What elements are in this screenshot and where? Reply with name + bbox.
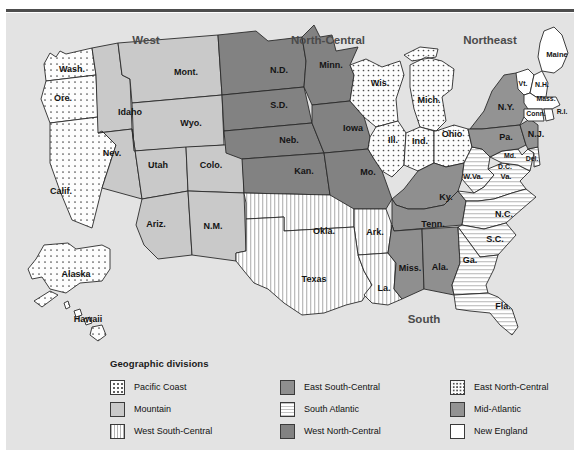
- state-label-del: Del.: [526, 155, 539, 162]
- legend-grid: Pacific Coast East South-Central East No…: [110, 376, 566, 442]
- legend-label-east-south-central: East South-Central: [304, 382, 380, 392]
- state-label-ariz: Ariz.: [146, 219, 166, 229]
- state-label-ark: Ark.: [366, 227, 384, 237]
- legend-label-west-north-central: West North-Central: [304, 426, 381, 436]
- state-label-nh: N.H.: [535, 81, 549, 88]
- legend-swatch-east-north-central: [450, 380, 465, 395]
- region-label-south: South: [408, 313, 441, 325]
- state-label-kan: Kan.: [294, 166, 314, 176]
- state-kansas: [242, 153, 330, 195]
- map-panel: West North-Central Northeast South Wash.…: [6, 13, 574, 450]
- state-label-pa: Pa.: [499, 132, 513, 142]
- state-label-miss: Miss.: [399, 263, 422, 273]
- figure-caption-strip: [0, 0, 580, 9]
- legend-item-east-south-central[interactable]: East South-Central: [280, 376, 450, 398]
- state-label-ny: N.Y.: [498, 102, 515, 112]
- legend-swatch-mid-atlantic: [450, 402, 465, 417]
- state-michigan: [404, 47, 454, 131]
- legend-swatch-new-england: [450, 424, 465, 439]
- legend-swatch-east-south-central: [280, 380, 295, 395]
- legend-item-west-south-central[interactable]: West South-Central: [110, 420, 280, 442]
- legend-swatch-south-atlantic: [280, 402, 295, 417]
- state-label-nc: N.C.: [495, 209, 513, 219]
- state-label-tenn: Tenn.: [421, 219, 444, 229]
- state-label-ill: Ill.: [388, 135, 398, 145]
- legend-label-west-south-central: West South-Central: [134, 426, 212, 436]
- state-label-wva: W.Va.: [463, 172, 483, 181]
- division-west-south-central: [236, 193, 402, 315]
- state-label-ga: Ga.: [463, 255, 478, 265]
- state-label-wash: Wash.: [59, 64, 85, 74]
- legend-label-east-north-central: East North-Central: [474, 382, 549, 392]
- legend-item-south-atlantic[interactable]: South Atlantic: [280, 398, 450, 420]
- state-label-md: Md.: [504, 152, 516, 159]
- state-label-sc: S.C.: [486, 234, 504, 244]
- legend-item-mountain[interactable]: Mountain: [110, 398, 280, 420]
- region-label-northeast: Northeast: [463, 34, 517, 46]
- legend-label-new-england: New England: [474, 426, 528, 436]
- state-label-wyo: Wyo.: [180, 118, 201, 128]
- state-label-la: La.: [377, 283, 390, 293]
- state-label-ky: Ky.: [439, 192, 452, 202]
- state-label-ri: R.I.: [557, 108, 568, 115]
- state-label-idaho: Idaho: [118, 107, 143, 117]
- state-label-ore: Ore.: [54, 93, 72, 103]
- region-label-north-central: North-Central: [291, 34, 365, 46]
- state-label-sd: S.D.: [270, 100, 288, 110]
- header-rule: [6, 9, 574, 12]
- state-texas: [236, 217, 372, 315]
- state-label-nj: N.J.: [528, 129, 545, 139]
- legend-swatch-west-south-central: [110, 424, 125, 439]
- state-label-iowa: Iowa: [343, 123, 364, 133]
- state-label-wis: Wis.: [371, 78, 389, 88]
- state-label-mich: Mich.: [417, 95, 440, 105]
- legend-item-pacific-coast[interactable]: Pacific Coast: [110, 376, 280, 398]
- state-indiana: [404, 127, 434, 171]
- legend-label-mountain: Mountain: [134, 404, 171, 414]
- state-label-okla: Okla.: [313, 226, 335, 236]
- state-label-alaska: Alaska: [61, 269, 91, 279]
- region-label-west: West: [132, 34, 159, 46]
- state-label-minn: Minn.: [319, 60, 343, 70]
- state-label-va: Va.: [501, 172, 512, 181]
- state-label-hawaii: Hawaii: [74, 314, 103, 324]
- state-label-conn: Conn.: [526, 110, 546, 117]
- state-label-texas: Texas: [302, 274, 327, 284]
- legend-label-south-atlantic: South Atlantic: [304, 404, 359, 414]
- state-label-neb: Neb.: [279, 135, 299, 145]
- state-florida: [454, 293, 518, 335]
- legend-item-new-england[interactable]: New England: [450, 420, 580, 442]
- state-label-maine: Maine: [546, 50, 568, 59]
- state-label-utah: Utah: [148, 160, 168, 170]
- state-label-ind: Ind.: [412, 136, 428, 146]
- state-label-vt: Vt.: [519, 80, 528, 87]
- state-label-nm: N.M.: [204, 221, 223, 231]
- state-label-mont: Mont.: [174, 67, 198, 77]
- state-label-mo: Mo.: [360, 167, 376, 177]
- legend-swatch-mountain: [110, 402, 125, 417]
- state-label-mass: Mass.: [536, 95, 555, 102]
- state-label-ohio: Ohio: [442, 129, 463, 139]
- legend-label-mid-atlantic: Mid-Atlantic: [474, 404, 521, 414]
- legend-item-mid-atlantic[interactable]: Mid-Atlantic: [450, 398, 580, 420]
- state-label-fla: Fla.: [495, 301, 511, 311]
- legend-label-pacific-coast: Pacific Coast: [134, 382, 187, 392]
- state-label-nev: Nev.: [103, 148, 121, 158]
- legend-swatch-pacific-coast: [110, 380, 125, 395]
- map-legend: Geographic divisions Pacific Coast East …: [96, 358, 566, 450]
- legend-swatch-west-north-central: [280, 424, 295, 439]
- legend-item-east-north-central[interactable]: East North-Central: [450, 376, 580, 398]
- state-label-dc: D.C.: [498, 163, 512, 170]
- state-label-calif: Calif.: [50, 186, 72, 196]
- state-label-nd: N.D.: [270, 65, 288, 75]
- state-wyoming: [132, 95, 224, 151]
- state-label-ala: Ala.: [432, 262, 449, 272]
- state-label-colo: Colo.: [200, 160, 223, 170]
- legend-item-west-north-central[interactable]: West North-Central: [280, 420, 450, 442]
- legend-title: Geographic divisions: [110, 358, 566, 369]
